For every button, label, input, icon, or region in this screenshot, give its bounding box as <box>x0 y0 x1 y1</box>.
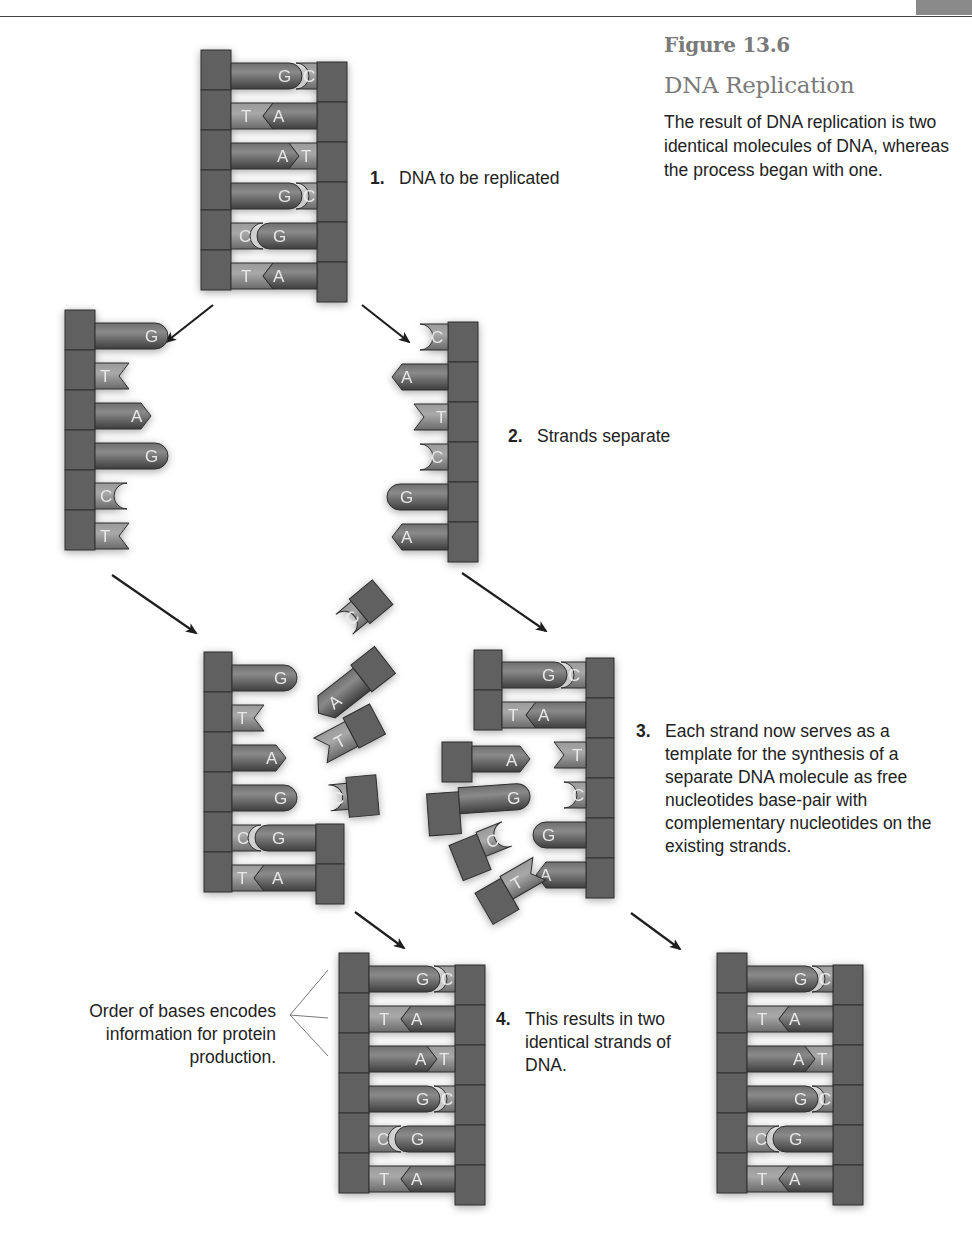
free-nucleotide-a-right: A <box>442 742 530 782</box>
free-nucleotide-g-right: G <box>426 783 532 836</box>
svg-text:T: T <box>508 706 518 725</box>
svg-text:A: A <box>272 869 284 888</box>
svg-text:G: G <box>274 669 287 688</box>
svg-text:T: T <box>100 367 110 386</box>
svg-text:G: G <box>506 788 521 808</box>
separated-left-strand: G T A G C T <box>65 310 168 550</box>
svg-text:G: G <box>542 666 555 685</box>
dna-double-strand-copy-2 <box>717 953 863 1205</box>
svg-text:C: C <box>237 829 249 848</box>
svg-text:G: G <box>400 488 413 507</box>
svg-text:A: A <box>506 751 518 770</box>
svg-text:G: G <box>145 327 158 346</box>
left-template-with-nucleotides: G T A G CG TA <box>204 652 344 904</box>
svg-text:G: G <box>542 826 555 845</box>
svg-text:A: A <box>538 706 550 725</box>
arrow-to-result-left <box>355 912 404 948</box>
arrow-to-result-right <box>631 913 680 949</box>
svg-text:G: G <box>145 447 158 466</box>
svg-text:C: C <box>568 666 580 685</box>
arrow-to-right-strand <box>362 305 409 342</box>
svg-text:C: C <box>431 448 443 467</box>
svg-text:G: G <box>272 829 285 848</box>
svg-text:A: A <box>401 368 413 387</box>
svg-text:A: A <box>401 528 413 547</box>
svg-text:T: T <box>237 709 247 728</box>
svg-text:A: A <box>266 749 278 768</box>
arrow-to-left-strand <box>166 305 213 342</box>
svg-text:T: T <box>100 527 110 546</box>
svg-text:C: C <box>431 328 443 347</box>
arrow-to-right-template <box>462 573 546 631</box>
svg-text:C: C <box>100 487 112 506</box>
dna-double-strand-copy-1 <box>339 953 485 1205</box>
free-nucleotide-c-1: C <box>334 580 393 637</box>
svg-text:C: C <box>572 786 584 805</box>
right-template-with-nucleotides: GC TA T C G A <box>474 650 614 898</box>
svg-text:T: T <box>237 869 247 888</box>
svg-text:C: C <box>331 789 345 809</box>
annotation-pointer-lines <box>290 970 328 1056</box>
svg-text:T: T <box>436 408 446 427</box>
svg-text:G: G <box>274 789 287 808</box>
free-nucleotide-c-2: C <box>328 775 379 819</box>
arrow-to-left-template <box>112 575 196 633</box>
svg-text:T: T <box>572 746 582 765</box>
svg-text:A: A <box>131 407 143 426</box>
separated-right-strand: C A T C G A <box>387 322 478 562</box>
dna-replication-diagram: GC TA AT GC CG TA C <box>0 0 972 1237</box>
dna-double-strand-original <box>201 50 347 302</box>
